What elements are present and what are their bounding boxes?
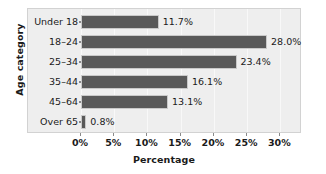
bar-value-label: 11.7% [163, 12, 193, 32]
bar [81, 55, 237, 69]
bar-row: Under 1811.7% [28, 12, 302, 32]
category-label: 25–34 [28, 52, 78, 72]
y-axis-title: Age category [14, 0, 25, 120]
bar [81, 75, 188, 89]
category-label: 45–64 [28, 92, 78, 112]
x-tick-label: 0% [72, 137, 88, 148]
bar [81, 95, 168, 109]
x-axis: 0%5%10%15%20%25%30% [27, 133, 301, 153]
x-tick-label: 5% [105, 137, 121, 148]
plot-area: Under 1811.7%18–2428.0%25–3423.4%35–4416… [27, 8, 301, 133]
bar-value-label: 0.8% [90, 112, 114, 132]
x-tick-mark [180, 133, 181, 136]
bar-row: Over 650.8% [28, 112, 302, 132]
bar-row: 25–3423.4% [28, 52, 302, 72]
category-label: Under 18 [28, 12, 78, 32]
bar [81, 15, 159, 29]
x-axis-title: Percentage [27, 154, 301, 165]
category-label: 18–24 [28, 32, 78, 52]
bar-value-label: 23.4% [241, 52, 271, 72]
x-tick-mark [146, 133, 147, 136]
bar-value-label: 28.0% [271, 32, 301, 52]
bar-rows: Under 1811.7%18–2428.0%25–3423.4%35–4416… [28, 9, 302, 134]
x-tick-label: 25% [235, 137, 258, 148]
bar [81, 115, 86, 129]
x-tick-mark [80, 133, 81, 136]
x-tick-label: 10% [135, 137, 158, 148]
x-tick-label: 30% [268, 137, 291, 148]
x-tick-mark [246, 133, 247, 136]
bar-value-label: 13.1% [172, 92, 202, 112]
bar-row: 35–4416.1% [28, 72, 302, 92]
bar-chart: Age category Under 1811.7%18–2428.0%25–3… [0, 0, 326, 174]
x-tick-label: 15% [168, 137, 191, 148]
x-tick-mark [113, 133, 114, 136]
bar-row: 18–2428.0% [28, 32, 302, 52]
x-tick-label: 20% [202, 137, 225, 148]
x-tick-mark [213, 133, 214, 136]
x-tick-mark [279, 133, 280, 136]
bar [81, 35, 267, 49]
bar-value-label: 16.1% [192, 72, 222, 92]
bar-row: 45–6413.1% [28, 92, 302, 112]
category-label: 35–44 [28, 72, 78, 92]
category-label: Over 65 [28, 112, 78, 132]
